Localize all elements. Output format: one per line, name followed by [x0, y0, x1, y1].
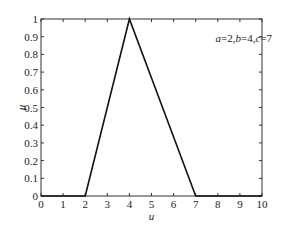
- y-tick-label: 0.8: [24, 48, 38, 60]
- ticks: [41, 19, 262, 196]
- y-tick-label: 0.2: [24, 155, 38, 167]
- x-tick-label: 9: [237, 198, 243, 210]
- y-tick-label: 0.3: [24, 137, 38, 149]
- y-tick-label: 0.7: [24, 66, 38, 78]
- annotation-part: =7: [260, 32, 272, 44]
- plot-frame: [41, 19, 262, 196]
- y-tick-label: 0.6: [24, 84, 38, 96]
- x-tick-label: 4: [127, 198, 133, 210]
- series-line: [41, 19, 262, 196]
- x-tick-label: 0: [38, 198, 44, 210]
- x-tick-label: 3: [105, 198, 111, 210]
- y-tick-label: 0.9: [24, 31, 38, 43]
- y-tick-label: 0.4: [24, 119, 38, 131]
- x-tick-label: 1: [60, 198, 66, 210]
- x-tick-labels: 012345678910: [38, 198, 268, 210]
- chart: 012345678910 00.10.20.30.40.50.60.70.80.…: [0, 0, 281, 233]
- x-tick-label: 8: [215, 198, 221, 210]
- parameter-annotation: a=2,b=4,c=7: [216, 32, 273, 44]
- y-tick-label: 1: [33, 13, 39, 25]
- x-tick-label: 2: [82, 198, 88, 210]
- x-tick-label: 5: [149, 198, 155, 210]
- x-tick-label: 10: [257, 198, 269, 210]
- annotation-part: =4,: [241, 32, 256, 44]
- y-tick-label: 0: [33, 190, 39, 202]
- x-tick-label: 6: [171, 198, 177, 210]
- x-axis-label: u: [149, 210, 155, 222]
- y-axis-label: μ: [15, 104, 27, 111]
- x-tick-label: 7: [193, 198, 199, 210]
- annotation-part: =2,: [221, 32, 236, 44]
- y-tick-label: 0.1: [24, 172, 38, 184]
